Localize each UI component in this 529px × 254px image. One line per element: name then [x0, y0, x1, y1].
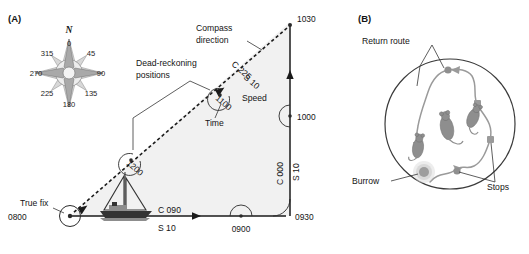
return-route-label: Return route [362, 36, 410, 46]
stops-leader-a [491, 143, 495, 182]
stops-label: Stops [487, 182, 509, 192]
compass-bearing-0: 0 [67, 39, 71, 48]
route-segment-lower [430, 140, 490, 182]
return-route-leader-b [417, 45, 432, 86]
dead-reckoning-label-line2: positions [136, 70, 170, 80]
waypoint-time-1000: 1000 [297, 112, 316, 122]
dead-reckoning-leader-upper [190, 81, 210, 90]
mouse-figure-center [437, 109, 463, 147]
stop-marker-top [444, 66, 451, 73]
dead-reckoning-label-line1: Dead-reckoning [136, 58, 197, 68]
leg-east-speed: S 10 [158, 223, 176, 233]
compass-bearing-90: 90 [97, 69, 105, 78]
leg-north-course: C 000 [275, 162, 285, 185]
leg-north-speed: S 10 [291, 163, 301, 181]
course-triangle-fill [70, 22, 290, 216]
figure-container: (A) N 0 45 90 135 180 225 270 315 [0, 0, 529, 254]
compass-bearing-180: 180 [63, 100, 76, 109]
compass-direction-leader [247, 41, 262, 50]
burrow-label: Burrow [352, 176, 380, 186]
waypoint-1030-dot [288, 23, 292, 27]
mouse-figure-right [462, 102, 487, 135]
route-arrow-top [451, 66, 460, 74]
figure-svg: (A) N 0 45 90 135 180 225 270 315 [0, 0, 529, 254]
stop-marker-right [487, 136, 494, 143]
compass-bearing-225: 225 [41, 89, 54, 98]
burrow-marker [419, 167, 429, 177]
compass-rose: N 0 45 90 135 180 225 270 315 [30, 24, 106, 109]
true-fix-dot [68, 214, 72, 218]
compass-direction-label-line1: Compass [196, 23, 232, 33]
panel-a: (A) N 0 45 90 135 180 225 270 315 [8, 13, 316, 234]
panel-a-label: (A) [8, 13, 21, 24]
true-fix-label: True fix [20, 198, 49, 208]
waypoint-time-0900: 0900 [232, 224, 251, 234]
speed-label: Speed [242, 93, 267, 103]
time-label: Time [205, 118, 224, 128]
waypoint-time-1030: 1030 [297, 14, 316, 24]
waypoint-time-0930: 0930 [295, 212, 314, 222]
stop-marker-lower [453, 167, 460, 174]
panel-b-label: (B) [358, 13, 371, 24]
waypoint-0900-dot [239, 214, 243, 218]
waypoint-1000-dot [288, 114, 292, 118]
waypoint-time-0800: 0800 [8, 212, 27, 222]
stops-leader-b [459, 172, 495, 182]
compass-bearing-135: 135 [85, 89, 98, 98]
compass-bearing-45: 45 [87, 49, 95, 58]
compass-direction-label-line2: direction [196, 35, 229, 45]
compass-bearing-270: 270 [30, 69, 43, 78]
leg-east-course: C 090 [158, 205, 181, 215]
return-route-leader-a [432, 45, 444, 68]
panel-b: (B) [352, 13, 515, 192]
compass-north-label: N [65, 24, 74, 35]
mouse-figure-left [408, 132, 425, 162]
compass-bearing-315: 315 [41, 49, 54, 58]
